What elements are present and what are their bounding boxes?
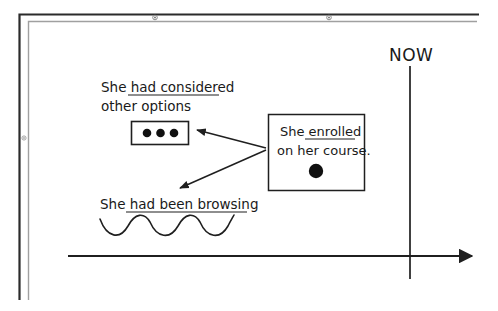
considered-line1: She had considered [101,79,234,95]
arrow-enrolled-to-browsing [180,150,266,188]
aspect-dot [143,129,152,138]
diagram-canvas: She had considered other options She enr… [0,0,498,311]
arrow-enrolled-to-considered [197,130,266,148]
enrolled-line2: on her course. [277,143,371,158]
enrolled-line1: She enrolled [280,124,361,139]
browsing-wavy-line [100,215,234,235]
diagram-artwork: She had considered other options She enr… [0,0,498,311]
browsing-line1: She had been browsing [100,196,258,212]
now-label: NOW [389,45,433,65]
aspect-dot [156,129,165,138]
aspect-dot [170,129,179,138]
enrolled-aspect-dot [309,164,323,178]
considered-line2: other options [101,98,191,114]
